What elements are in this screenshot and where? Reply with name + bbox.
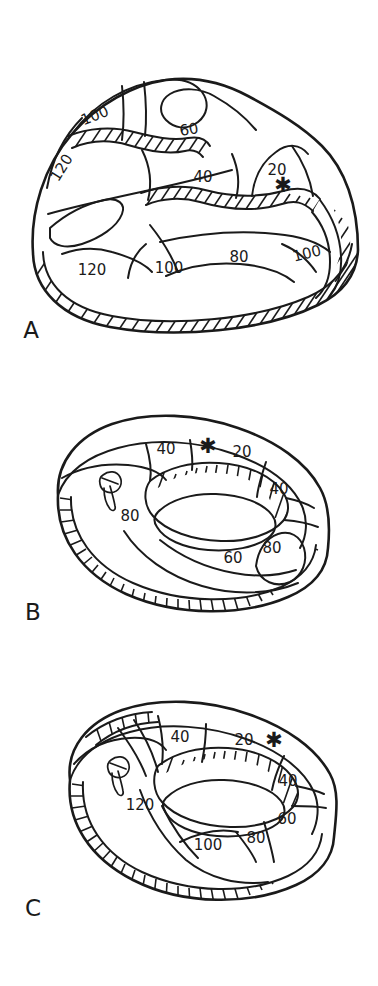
panel-a-contour-80-lower (166, 264, 294, 283)
contour-label: 40 (269, 480, 288, 498)
contour-label: 120 (126, 796, 155, 814)
panel-c-contour-120 (74, 738, 166, 764)
panel-c: 40 20 40 60 120 100 80 ✱ C (25, 701, 337, 921)
panel-c-contour-wedge-1 (118, 728, 146, 776)
contour-label: 40 (193, 168, 212, 186)
panel-c-contour-60-sep (292, 806, 326, 808)
panel-c-contour-40-right (296, 786, 324, 794)
contour-label: 80 (229, 248, 248, 266)
panel-b-hatch-inner (155, 465, 294, 532)
contour-label: 20 (232, 443, 251, 461)
contour-label: 40 (278, 772, 297, 790)
contour-label: 120 (46, 151, 76, 185)
panel-a-labels: 100 120 60 40 20 80 100 120 100 ✱ (46, 102, 323, 279)
panel-c-opening-outer (154, 748, 298, 827)
contour-label: 40 (156, 440, 175, 458)
panel-b: 40 20 40 80 60 80 ✱ B (25, 416, 329, 625)
contour-label: 100 (155, 259, 184, 277)
teardrop-marker (108, 757, 130, 796)
panel-letter-c: C (25, 895, 41, 921)
panel-b-opening-inner (154, 494, 275, 551)
panel-b-contour-20-right (257, 462, 266, 497)
asterisk-marker: ✱ (265, 728, 283, 752)
asterisk-marker: ✱ (199, 434, 217, 458)
contour-label: 100 (194, 836, 223, 854)
panel-c-contour-40-left (158, 716, 163, 764)
contour-label: 80 (246, 829, 265, 847)
panel-b-contour-40-left (146, 444, 151, 481)
contour-label: 80 (120, 507, 139, 525)
panel-a-contour-60 (144, 82, 146, 136)
contour-label: 20 (234, 731, 253, 749)
figure-svg: 100 120 60 40 20 80 100 120 100 ✱ A (0, 0, 378, 986)
panel-a-contour-left-lobe (50, 199, 123, 246)
panel-a-contour-40-right (232, 154, 238, 198)
figure-root: 100 120 60 40 20 80 100 120 100 ✱ A (0, 0, 378, 986)
contour-label: 60 (277, 810, 296, 828)
panel-letter-a: A (23, 317, 39, 343)
panel-a: 100 120 60 40 20 80 100 120 100 ✱ A (20, 79, 372, 356)
panel-letter-b: B (25, 599, 41, 625)
contour-label: 120 (78, 261, 107, 279)
panel-b-contour-40-right-lower (284, 520, 318, 527)
panel-b-opening-outer (145, 463, 288, 541)
contour-label: 60 (178, 119, 200, 140)
contour-label: 40 (170, 728, 189, 746)
panel-c-contour-20-left (202, 724, 206, 762)
contour-label: 100 (291, 241, 323, 265)
contour-label: 100 (78, 102, 111, 129)
contour-label: 60 (223, 549, 242, 567)
contour-label: 80 (262, 539, 281, 557)
asterisk-marker: ✱ (274, 173, 292, 197)
teardrop-marker (100, 472, 122, 511)
